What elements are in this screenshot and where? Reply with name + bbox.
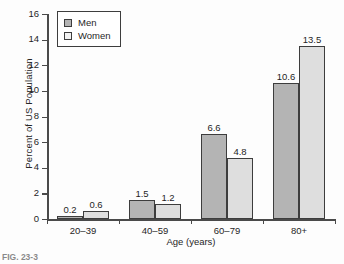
figure-root: Percent of US Population 0246810121416 0… — [0, 0, 344, 264]
legend-swatch-men-icon — [64, 19, 72, 27]
x-tick — [47, 219, 48, 224]
bar-value-label: 4.8 — [233, 146, 246, 157]
y-tick: 12 — [42, 65, 47, 66]
bar-value-label: 0.2 — [63, 204, 76, 215]
x-tick — [119, 219, 120, 224]
y-tick-label: 6 — [34, 136, 39, 147]
x-category-label: 80+ — [291, 225, 307, 236]
x-tick — [191, 219, 192, 224]
bar-women-2039[interactable]: 0.6 — [83, 211, 109, 219]
bar-value-label: 10.6 — [277, 71, 296, 82]
y-tick-label: 16 — [28, 8, 39, 19]
x-axis-title: Age (years) — [47, 236, 335, 247]
bar-value-label: 1.2 — [161, 192, 174, 203]
bar-women-6079[interactable]: 4.8 — [227, 158, 253, 220]
legend-label-men: Men — [78, 17, 96, 28]
bar-men-2039[interactable]: 0.2 — [57, 216, 83, 219]
y-tick-label: 12 — [28, 59, 39, 70]
bar-value-label: 6.6 — [207, 122, 220, 133]
y-tick-label: 0 — [34, 213, 39, 224]
y-tick: 14 — [42, 40, 47, 41]
bar-men-6079[interactable]: 6.6 — [201, 134, 227, 219]
bar-women-4059[interactable]: 1.2 — [155, 204, 181, 219]
y-tick-label: 14 — [28, 33, 39, 44]
legend-item-men: Men — [64, 16, 111, 29]
x-category-label: 40–59 — [142, 225, 168, 236]
bar-value-label: 13.5 — [303, 34, 322, 45]
y-tick: 4 — [42, 168, 47, 169]
bar-men-4059[interactable]: 1.5 — [129, 200, 155, 219]
legend-swatch-women-icon — [64, 32, 72, 40]
y-tick-label: 2 — [34, 187, 39, 198]
y-tick: 10 — [42, 91, 47, 92]
bar-men-80[interactable]: 10.6 — [273, 83, 299, 219]
legend-item-women: Women — [64, 29, 111, 42]
y-axis-title: Percent of US Population — [23, 29, 34, 199]
y-axis-line — [47, 14, 49, 219]
bar-value-label: 1.5 — [135, 188, 148, 199]
y-tick-label: 10 — [28, 84, 39, 95]
legend: Men Women — [57, 11, 121, 47]
legend-label-women: Women — [78, 30, 111, 41]
figure-caption: FIG. 23-3 — [2, 252, 38, 262]
y-tick-label: 8 — [34, 110, 39, 121]
y-tick: 2 — [42, 193, 47, 194]
y-tick: 6 — [42, 142, 47, 143]
y-tick: 16 — [42, 14, 47, 15]
x-tick — [263, 219, 264, 224]
x-category-label: 20–39 — [70, 225, 96, 236]
bar-value-label: 0.6 — [89, 199, 102, 210]
y-tick-label: 4 — [34, 161, 39, 172]
x-tick — [335, 219, 336, 224]
bar-women-80[interactable]: 13.5 — [299, 46, 325, 219]
y-tick: 8 — [42, 117, 47, 118]
x-category-label: 60–79 — [214, 225, 240, 236]
